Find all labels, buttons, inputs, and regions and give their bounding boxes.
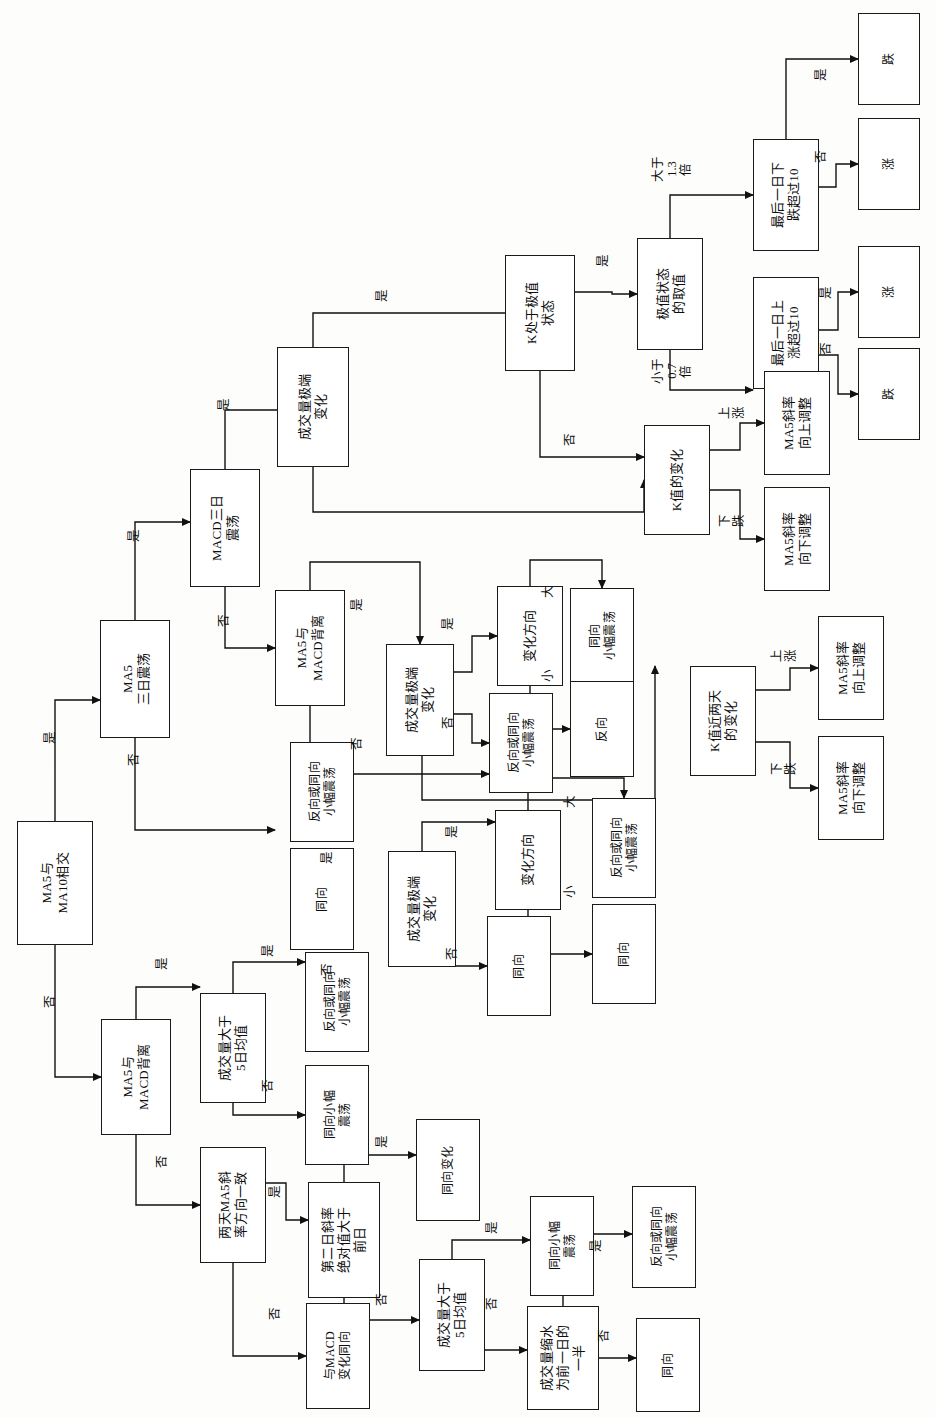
edge-label: 下 跌 [770,748,798,788]
flow-node[interactable]: 同向 [487,916,551,1016]
flow-node[interactable]: MA5斜率 向下调整 [764,487,830,591]
connector [819,164,858,187]
edge-label: 是 [155,943,169,983]
connector [135,738,275,830]
flow-node-label: 最后一日上 涨超过10 [770,300,802,366]
flow-node[interactable]: 反向或同向 小幅震荡 [632,1186,696,1288]
flow-node[interactable]: 反向或同向 小幅震荡 [489,693,553,793]
flow-node-label: MA5与 MA10相交 [39,852,71,913]
connector [530,560,602,588]
flow-node[interactable]: 两天MA5斜 率方向一致 [200,1147,266,1263]
flow-node[interactable]: 最后一日下 跌超过10 [753,139,819,251]
flow-node[interactable]: 成交量极端 变化 [386,644,454,756]
flow-node-label: MACD三日 震荡 [209,495,241,561]
flow-node[interactable]: 成交量极端 变化 [277,347,349,467]
edge-label: 小于 0.7 倍 [651,351,693,391]
connector [540,371,644,457]
connector [454,636,497,672]
flow-node-label: K值的变化 [669,449,685,511]
flow-node[interactable]: 变化方向 [495,810,561,910]
edge-label: 是 [596,240,610,280]
flow-node[interactable]: MA5斜率 向下调整 [818,736,884,840]
flow-node[interactable]: K处于极值 状态 [505,255,575,371]
flow-node[interactable]: 成交量缩水 为前一日的 一半 [527,1306,599,1410]
connector [452,1240,530,1259]
flow-node-label: 反向 [595,717,610,741]
flow-node[interactable]: 与MACD 变化同向 [306,1303,370,1409]
flow-node[interactable]: 同向小幅 震荡 [530,1196,594,1296]
flow-node[interactable]: MA5与 MACD背离 [275,590,345,706]
connector [756,742,818,788]
flow-node[interactable]: 同向小幅 震荡 [305,1065,369,1165]
connector [233,1263,306,1356]
flow-node-label: 同向小幅 震荡 [547,1222,576,1271]
connector [313,467,644,512]
connector [670,195,753,238]
flow-node[interactable]: 反向或同向 小幅震荡 [305,952,369,1052]
flow-node-label: 反向或同向 小幅震荡 [506,713,535,774]
flow-node-label: 反向或同向 小幅震荡 [649,1207,678,1268]
flow-node-label: 跌 [882,53,897,65]
flow-node[interactable]: MA5与 MACD背离 [101,1019,171,1135]
flow-node-label: 变化方向 [520,834,536,887]
edge-label: 是 [485,1207,499,1247]
flow-node[interactable]: 涨 [858,246,920,338]
flow-node[interactable]: 同向 [290,848,354,950]
flow-node-label: MA5与 MACD背离 [294,615,326,681]
connector [819,292,858,330]
flow-node[interactable]: MA5斜率 向上调整 [764,371,830,475]
flow-node-label: 涨 [882,158,897,170]
flow-node[interactable]: 第二日斜率 绝对值大于 前日 [308,1182,380,1298]
flow-node-label: 同向 [617,942,632,966]
flow-node[interactable]: 跌 [858,13,920,105]
flow-node-label: 反向或同向 小幅震荡 [322,972,351,1033]
flow-node[interactable]: 同向变化 [416,1119,480,1221]
flow-node-label: K处于极值 状态 [524,282,556,344]
flow-node[interactable]: K值近两天 的变化 [690,666,756,776]
flow-node[interactable]: 成交量大于 5日均值 [200,993,266,1103]
flow-node[interactable]: 成交量大于 5日均值 [419,1259,485,1371]
flow-node-label: 同向 [661,1353,676,1377]
flow-node[interactable]: 同向 [636,1318,700,1412]
edge-label: 否 [485,1283,499,1323]
edge-label: 是 [217,384,231,424]
flow-node[interactable]: 反向或同向 小幅震荡 [290,742,354,842]
edge-label: 是 [375,1121,389,1161]
flow-node[interactable]: 变化方向 [497,586,563,686]
flow-node[interactable]: 同向 [592,904,656,1004]
flow-node[interactable]: 反向 [570,681,634,777]
edge-label: 否 [597,1315,611,1355]
flow-node[interactable]: MA5与 MA10相交 [17,821,93,945]
flow-node[interactable]: 极值状态 的取值 [637,238,703,350]
connector [233,1103,305,1115]
flow-node[interactable]: MA5 三日震荡 [100,620,170,738]
edge-label: 否 [819,328,833,368]
connector [422,822,495,851]
flow-node[interactable]: MACD三日 震荡 [190,469,260,587]
flow-node-label: 同向变化 [441,1146,456,1195]
flow-node[interactable]: 成交量极端 变化 [388,851,456,967]
connector [55,945,101,1077]
flow-node[interactable]: 同向 小幅震荡 [570,588,634,684]
flow-node-label: 成交量缩水 为前一日的 一半 [539,1325,587,1391]
edge-label: 是 [819,272,833,312]
flow-node-label: 同向 小幅震荡 [587,612,616,661]
flow-node[interactable]: 涨 [858,118,920,210]
flow-node[interactable]: 反向或同向 小幅震荡 [592,798,656,898]
flow-node[interactable]: MA5斜率 向上调整 [818,616,884,720]
edge-label: 是 [268,1171,282,1211]
connector [710,423,764,450]
flow-node[interactable]: 跌 [858,348,920,440]
flow-node-label: 两天MA5斜 率方向一致 [217,1171,249,1239]
edge-label: 否 [127,739,141,779]
flow-node-label: 跌 [882,388,897,400]
flow-node-label: 成交量大于 5日均值 [436,1282,468,1348]
flow-node-label: 成交量极端 变化 [406,876,438,942]
connector [454,714,489,743]
edge-label: 是 [445,811,459,851]
flow-node[interactable]: K值的变化 [644,425,710,535]
flow-node-label: 第二日斜率 绝对值大于 前日 [320,1207,368,1273]
edge-label: 是 [375,275,389,315]
edge-label: 是 [350,584,364,624]
flow-node-label: MA5斜率 向上调整 [781,396,813,450]
